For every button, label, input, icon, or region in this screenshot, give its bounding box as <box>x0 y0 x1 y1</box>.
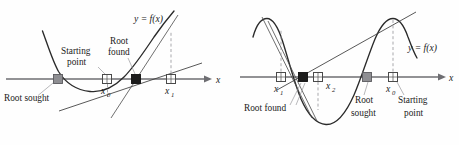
newton-method-figure: x x 0 x 1 y = f(x) Root sought St <box>0 0 459 145</box>
right-x1-subscript: 1 <box>280 89 283 96</box>
right-starting-point-label-1: Starting <box>398 95 428 105</box>
figure-canvas: x x 0 x 1 y = f(x) Root sought St <box>0 0 459 145</box>
left-leader-starting-point <box>98 67 106 75</box>
right-root-sought-label-2: sought <box>351 108 376 118</box>
right-axis-arrowhead <box>438 74 446 81</box>
left-root-found-label-2: found <box>108 47 130 57</box>
left-panel: x x 0 x 1 y = f(x) Root sought St <box>4 11 221 118</box>
right-x0-subscript: 0 <box>392 89 396 96</box>
left-starting-point-label-1: Starting <box>61 46 91 56</box>
left-x1-subscript: 1 <box>171 91 174 98</box>
left-axis-label: x <box>215 74 221 85</box>
right-axis-label: x <box>448 72 454 83</box>
left-function-label: y = f(x) <box>133 13 163 25</box>
left-root-sought-marker[interactable] <box>54 75 63 84</box>
left-root-found-marker[interactable] <box>132 75 141 84</box>
right-leader-starting-point <box>397 82 404 95</box>
right-x-axis <box>240 74 446 81</box>
right-x2-subscript: 2 <box>332 86 336 93</box>
right-starting-point-label-2: point <box>404 108 424 118</box>
right-x2-label: x <box>325 80 331 91</box>
left-x1-label: x <box>164 85 170 96</box>
left-x0-label: x <box>100 85 106 96</box>
left-root-sought-label: Root sought <box>4 93 50 103</box>
left-starting-point-label-2: point <box>67 57 87 67</box>
right-root-sought-marker[interactable] <box>363 73 372 82</box>
left-axis-arrowhead <box>204 76 212 83</box>
right-root-found-label: Root found <box>244 103 286 113</box>
right-x1-label: x <box>273 83 279 94</box>
right-root-found-marker[interactable] <box>299 73 308 82</box>
right-panel: x x 1 x 2 x 0 <box>240 12 454 125</box>
left-secant-line <box>111 15 178 118</box>
right-leader-root-sought <box>364 82 368 95</box>
right-x0-label: x <box>385 83 391 94</box>
right-function-label: y = f(x) <box>407 42 437 54</box>
right-root-sought-label-1: Root <box>355 95 373 105</box>
left-root-found-label-1: Root <box>110 36 128 46</box>
